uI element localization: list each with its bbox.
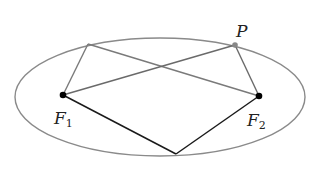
label-p: P (235, 21, 248, 41)
focus-f2-dot (256, 93, 263, 100)
focus-f1-dot (60, 92, 67, 99)
label-f2: F2 (246, 110, 266, 132)
line-f1-to-p (63, 45, 235, 95)
line-f1-to-bottom-point (63, 95, 176, 154)
label-f1: F1 (53, 108, 73, 130)
line-top-point-to-f2 (88, 44, 259, 96)
point-p-dot (232, 42, 238, 48)
ellipse-diagram: P F1 F2 (0, 0, 330, 174)
